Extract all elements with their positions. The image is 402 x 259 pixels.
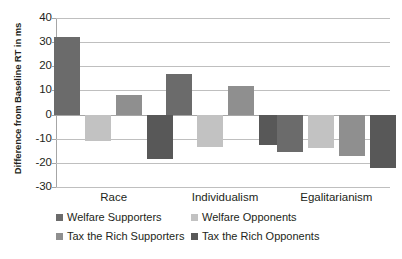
- bar: [339, 115, 365, 156]
- y-axis-tick-mark: [52, 18, 56, 19]
- bar: [116, 95, 142, 114]
- y-axis-tick-label: 10: [6, 85, 52, 97]
- bar: [308, 115, 334, 149]
- legend-item[interactable]: Welfare Opponents: [191, 212, 297, 223]
- bar: [197, 115, 223, 148]
- bar: [54, 37, 80, 114]
- y-axis-tick-label: 40: [6, 12, 52, 24]
- legend-item[interactable]: Tax the Rich Supporters: [56, 231, 184, 242]
- x-axis-category-label: Race: [100, 191, 127, 203]
- legend-label: Welfare Supporters: [67, 212, 162, 223]
- bar: [166, 74, 192, 115]
- gridline: [56, 187, 390, 188]
- y-axis-tick-mark: [52, 163, 56, 164]
- bar: [370, 115, 396, 168]
- gridline: [56, 42, 390, 43]
- x-axis-category-label: Egalitarianism: [300, 191, 372, 203]
- legend-swatch-icon: [191, 214, 198, 221]
- legend-swatch-icon: [56, 233, 63, 240]
- gridline: [56, 90, 390, 91]
- legend-swatch-icon: [191, 233, 198, 240]
- y-axis-tick-label: 30: [6, 36, 52, 48]
- legend-label: Welfare Opponents: [202, 212, 297, 223]
- y-axis-tick-label: 20: [6, 61, 52, 73]
- gridline: [56, 66, 390, 67]
- bar-chart: Difference from Baseline RT in ms 403020…: [0, 0, 402, 259]
- y-axis-tick-mark: [52, 115, 56, 116]
- bar: [277, 115, 303, 152]
- bar: [85, 115, 111, 142]
- gridline: [56, 163, 390, 164]
- x-axis-category-label: Individualism: [192, 191, 258, 203]
- bar: [228, 86, 254, 115]
- legend-item[interactable]: Tax the Rich Opponents: [191, 231, 319, 242]
- y-axis-tick-label: -30: [6, 181, 52, 193]
- legend-label: Tax the Rich Opponents: [202, 231, 319, 242]
- legend-swatch-icon: [56, 214, 63, 221]
- y-axis-tick-mark: [52, 187, 56, 188]
- bar: [147, 115, 173, 160]
- chart-legend: Welfare SupportersWelfare OpponentsTax t…: [56, 212, 386, 252]
- legend-item[interactable]: Welfare Supporters: [56, 212, 162, 223]
- y-axis-tick-label: 0: [6, 109, 52, 121]
- y-axis-tick-label: -20: [6, 157, 52, 169]
- gridline: [56, 18, 390, 19]
- y-axis-tick-label: -10: [6, 133, 52, 145]
- legend-label: Tax the Rich Supporters: [67, 231, 184, 242]
- y-axis-tick-mark: [52, 139, 56, 140]
- plot-area: [56, 18, 390, 187]
